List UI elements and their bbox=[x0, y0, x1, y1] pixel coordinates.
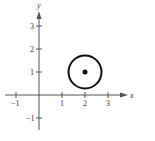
y-axis-arrow-icon bbox=[37, 11, 42, 19]
y-axis: y 3 2 1 −1 bbox=[26, 1, 42, 130]
x-axis: x −1 1 2 3 bbox=[5, 91, 134, 108]
y-tick-label: 1 bbox=[30, 68, 34, 77]
center-point bbox=[83, 70, 88, 75]
x-tick-label: 3 bbox=[106, 99, 110, 108]
x-axis-label: x bbox=[129, 91, 134, 100]
x-axis-arrow-icon bbox=[120, 93, 128, 98]
y-tick-label: 2 bbox=[30, 45, 34, 54]
x-tick-label: 2 bbox=[83, 99, 87, 108]
y-tick-label: −1 bbox=[26, 114, 35, 123]
y-tick-label: 3 bbox=[30, 22, 34, 31]
x-tick-label: 1 bbox=[60, 99, 64, 108]
coordinate-plane: x −1 1 2 3 y 3 2 1 −1 bbox=[0, 0, 155, 141]
y-axis-label: y bbox=[36, 1, 41, 10]
x-tick-label: −1 bbox=[11, 99, 20, 108]
